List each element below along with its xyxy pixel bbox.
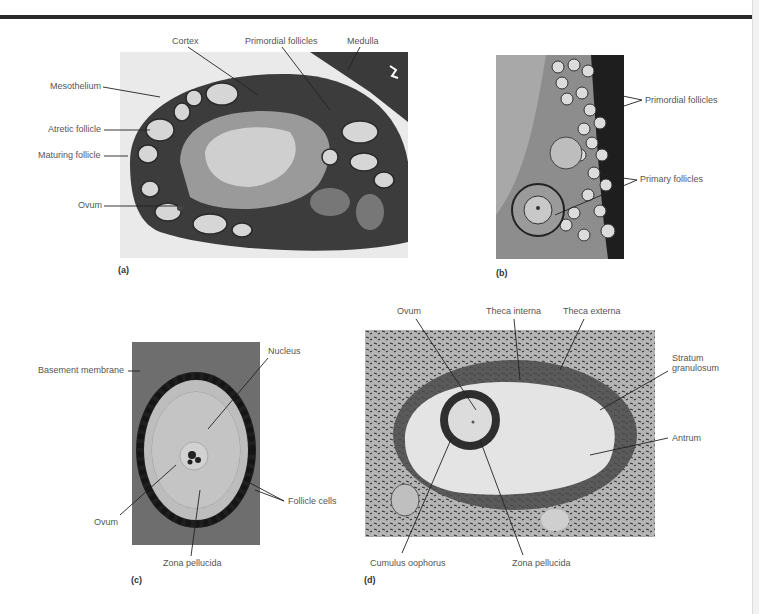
panel-a-label: (a) — [118, 265, 129, 275]
label-ovum-d: Ovum — [397, 306, 421, 316]
panel-c-micrograph — [132, 342, 260, 545]
label-cortex: Cortex — [172, 36, 199, 46]
ovary-section-image — [120, 52, 408, 258]
top-rule — [0, 15, 752, 19]
label-cumulus-oophorus: Cumulus oophorus — [370, 558, 446, 568]
label-stratum-granulosum-text: Stratum granulosum — [672, 353, 719, 373]
panel-c-label: (c) — [131, 575, 142, 585]
label-zona-pellucida-d: Zona pellucida — [512, 558, 571, 568]
label-stratum-granulosum: Stratum granulosum — [672, 353, 732, 374]
panel-b-label: (b) — [496, 268, 508, 278]
panel-b-micrograph — [496, 55, 624, 259]
label-nucleus: Nucleus — [268, 346, 301, 356]
label-medulla: Medulla — [347, 36, 379, 46]
label-maturing-follicle: Maturing follicle — [38, 150, 101, 160]
label-ovum-c: Ovum — [94, 517, 118, 527]
label-antrum: Antrum — [672, 433, 701, 443]
vesicular-follicle-image — [365, 330, 655, 537]
label-mesothelium: Mesothelium — [50, 81, 101, 91]
follicles-image — [496, 55, 624, 259]
label-theca-interna: Theca interna — [486, 306, 541, 316]
label-theca-externa: Theca externa — [563, 306, 621, 316]
label-basement-membrane: Basement membrane — [38, 365, 124, 375]
label-primordial-follicles-a: Primordial follicles — [245, 36, 318, 46]
panel-d-micrograph — [365, 330, 655, 537]
ovum-closeup-image — [132, 342, 260, 545]
label-follicle-cells: Follicle cells — [288, 496, 337, 506]
panel-d-label: (d) — [364, 575, 376, 585]
label-atretic-follicle: Atretic follicle — [48, 124, 101, 134]
page-edge — [752, 0, 759, 614]
label-ovum-a: Ovum — [78, 200, 102, 210]
label-zona-pellucida-c: Zona pellucida — [163, 558, 222, 568]
label-primary-follicles: Primary follicles — [640, 174, 703, 184]
label-primordial-follicles-b: Primordial follicles — [645, 95, 718, 105]
panel-a-micrograph — [120, 52, 408, 258]
